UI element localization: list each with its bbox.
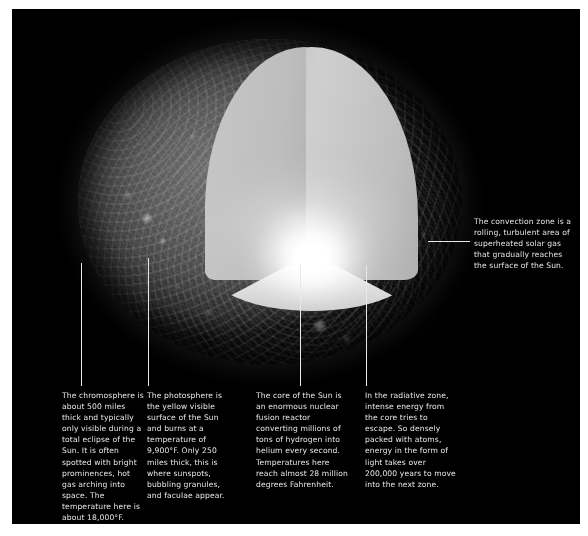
leader-line-photosphere <box>148 258 149 386</box>
leader-line-radiative-zone <box>366 265 367 386</box>
caption-core: The core of the Sun is an enormous nucle… <box>256 390 348 490</box>
poster-plate: The chromosphere is about 500 miles thic… <box>12 9 580 524</box>
leader-line-core <box>300 265 301 386</box>
cutaway-wedge <box>205 47 418 317</box>
caption-radiative-zone: In the radiative zone, intense energy fr… <box>365 390 457 490</box>
caption-photosphere: The photosphere is the yellow visible su… <box>147 390 235 501</box>
caption-chromosphere: The chromosphere is about 500 miles thic… <box>62 390 146 523</box>
figure-root: The chromosphere is about 500 miles thic… <box>0 0 588 536</box>
caption-convection-zone: The convection zone is a rolling, turbul… <box>474 216 572 271</box>
leader-line-chromosphere <box>81 263 82 386</box>
core-glow <box>238 197 384 317</box>
leader-line-convection-zone <box>428 241 470 242</box>
